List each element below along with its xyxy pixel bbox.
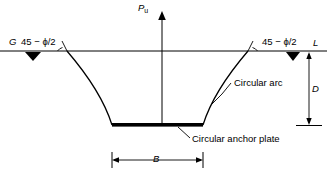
depth-arrowhead-bottom-icon [306, 118, 311, 125]
depth-label: D [312, 84, 319, 94]
anchor-plate-callout-label: Circular anchor plate [192, 134, 280, 144]
leader-line-anchor-plate [178, 127, 190, 138]
angle-tick-left [62, 41, 67, 51]
failure-arc-right [203, 51, 248, 125]
width-arrowhead-left-icon [112, 157, 119, 162]
load-label-subscript: u [144, 7, 148, 14]
ground-marker-left-icon [25, 52, 41, 61]
anchor-plate [112, 123, 203, 127]
depth-arrowhead-top-icon [306, 52, 311, 59]
angle-label-right: 45 − ϕ/2 [262, 37, 297, 47]
ground-surface-label: L [313, 38, 318, 48]
width-arrowhead-right-icon [196, 157, 203, 162]
angle-arc-right [253, 48, 258, 52]
circular-arc-callout-label: Circular arc [234, 78, 283, 88]
width-label: B [153, 154, 159, 164]
diagram-canvas [0, 0, 327, 179]
load-label: Pu [138, 3, 148, 14]
anchor-plate-diagram: Pu G 45 − ϕ/2 45 − ϕ/2 L D B Circular ar… [0, 0, 327, 179]
failure-arc-left [67, 51, 112, 125]
load-arrowhead-icon [158, 11, 166, 20]
ground-marker-right-icon [286, 52, 300, 61]
angle-tick-right [248, 41, 253, 51]
angle-label-left: 45 − ϕ/2 [21, 37, 56, 47]
angle-arc-left [58, 48, 63, 52]
ground-label-left: G [9, 37, 16, 47]
